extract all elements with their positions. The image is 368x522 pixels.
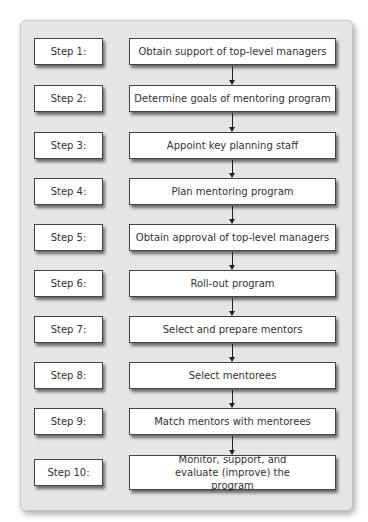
arrow-down-icon [232,390,233,407]
step-action-3: Appoint key planning staff [129,132,336,159]
step-action-7: Select and prepare mentors [129,316,336,343]
step-action-8: Select mentorees [129,362,336,389]
step-label-2: Step 2: [34,85,103,112]
arrow-down-icon [232,436,233,454]
step-action-10: Monitor, support, and evaluate (improve)… [129,455,336,490]
step-action-2: Determine goals of mentoring program [129,85,336,112]
step-label-8: Step 8: [34,362,103,389]
arrow-down-icon [232,160,233,177]
step-label-7: Step 7: [34,316,103,343]
step-label-10: Step 10: [34,459,103,486]
arrow-down-icon [232,252,233,269]
arrow-down-icon [232,113,233,131]
step-action-5: Obtain approval of top-level managers [129,224,336,251]
arrow-down-icon [232,66,233,84]
step-action-9: Match mentors with mentorees [129,408,336,435]
arrow-down-icon [232,344,233,361]
step-label-6: Step 6: [34,270,103,297]
step-action-4: Plan mentoring program [129,178,336,205]
step-label-5: Step 5: [34,224,103,251]
arrow-down-icon [232,206,233,223]
arrow-down-icon [232,298,233,315]
step-label-4: Step 4: [34,178,103,205]
step-action-6: Roll-out program [129,270,336,297]
step-label-1: Step 1: [34,38,103,65]
step-label-3: Step 3: [34,132,103,159]
step-action-1: Obtain support of top-level managers [129,38,336,65]
step-label-9: Step 9: [34,408,103,435]
